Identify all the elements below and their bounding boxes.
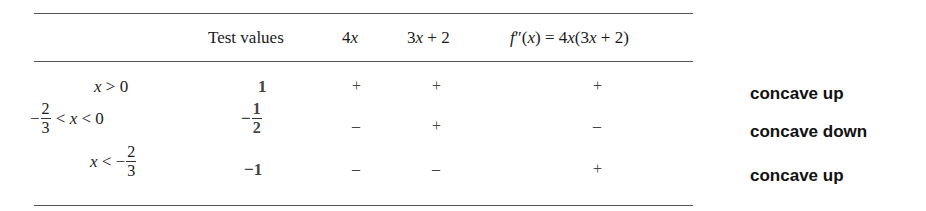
interval-relation: > 0	[102, 77, 129, 96]
header-3x2-rest: + 2	[423, 28, 450, 47]
conclusion-text: concave down	[750, 122, 867, 141]
header-fpp-var: x	[528, 28, 536, 47]
test-value: 1	[258, 77, 267, 96]
fraction-num: 2	[126, 144, 136, 162]
row-3-conclusion: concave up	[750, 166, 844, 186]
row-1-interval: x > 0	[94, 78, 128, 95]
fraction-num: 1	[252, 101, 262, 119]
top-rule	[34, 13, 693, 14]
row-2-sign-3x-plus-2: +	[432, 118, 441, 134]
row-3-sign-second-derivative: +	[593, 161, 602, 177]
interval-var: x	[70, 110, 78, 127]
fraction-two-thirds: 23	[126, 144, 136, 179]
header-4x: 4x	[342, 29, 358, 46]
conclusion-text: concave up	[750, 166, 844, 185]
interval-var: x	[90, 153, 98, 170]
sign-minus: –	[593, 117, 601, 134]
fraction-den: 3	[127, 162, 135, 179]
interval-relation: < −	[98, 153, 126, 170]
conclusion-text: concave up	[750, 84, 844, 103]
header-3x2-var: x	[416, 28, 424, 47]
row-1-sign-second-derivative: +	[593, 78, 602, 94]
interval-var: x	[94, 77, 102, 96]
fraction-num: 2	[41, 101, 51, 119]
row-2-test-value: − 12	[241, 101, 263, 136]
header-test-values-text: Test values	[208, 28, 284, 47]
sign-plus: +	[432, 117, 441, 134]
header-fpp-tail: (3	[575, 28, 589, 47]
fraction-one-half: 12	[252, 101, 262, 136]
header-second-derivative: f″(x) = 4x(3x + 2)	[510, 29, 629, 46]
header-rule	[34, 61, 693, 62]
header-fpp-primes: ″	[515, 28, 522, 47]
header-4x-var: x	[351, 28, 359, 47]
interval-neg: −	[30, 110, 40, 127]
row-1-sign-3x-plus-2: +	[432, 78, 441, 94]
header-3x2-coef: 3	[407, 28, 416, 47]
fraction-den: 3	[42, 119, 50, 136]
test-value: −1	[244, 160, 262, 179]
header-test-values: Test values	[208, 29, 284, 46]
row-3-interval: x < − 23	[90, 144, 137, 179]
row-2-sign-second-derivative: –	[593, 118, 601, 134]
row-3-sign-4x: –	[352, 161, 360, 177]
sign-plus: +	[593, 160, 602, 177]
sign-plus: +	[593, 77, 602, 94]
test-value-neg: −	[241, 110, 251, 127]
row-1-conclusion: concave up	[750, 84, 844, 104]
sign-minus: –	[352, 160, 360, 177]
row-2-conclusion: concave down	[750, 122, 867, 142]
row-3-sign-3x-plus-2: –	[432, 161, 440, 177]
fraction-two-thirds: 23	[41, 101, 51, 136]
fraction-den: 2	[253, 119, 261, 136]
header-fpp-tail: + 2)	[597, 28, 629, 47]
sign-plus: +	[432, 77, 441, 94]
bottom-rule	[34, 205, 693, 206]
sign-minus: –	[352, 117, 360, 134]
row-1-test-value: 1	[258, 78, 267, 95]
header-fpp-var: x	[567, 28, 575, 47]
header-3x-plus-2: 3x + 2	[407, 29, 450, 46]
sign-plus: +	[352, 77, 361, 94]
interval-relation: < 0	[77, 110, 104, 127]
interval-relation: <	[52, 110, 70, 127]
header-fpp-var: x	[589, 28, 597, 47]
sign-minus: –	[432, 160, 440, 177]
header-fpp-eq: = 4	[541, 28, 568, 47]
header-4x-coef: 4	[342, 28, 351, 47]
row-2-sign-4x: –	[352, 118, 360, 134]
row-1-sign-4x: +	[352, 78, 361, 94]
row-2-interval: − 23 < x < 0	[30, 101, 104, 136]
row-3-test-value: −1	[244, 161, 262, 178]
